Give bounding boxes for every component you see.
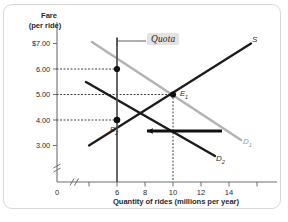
y-tick-label-6: 6.00 (12, 66, 50, 74)
point-label-e1: E1 (180, 90, 188, 100)
point-label-e2-sub: 2 (115, 130, 118, 136)
y-tick-label-3: 3.00 (12, 142, 50, 150)
curve-label-d2-sub: 2 (222, 159, 225, 165)
curve-d2 (86, 82, 215, 156)
quota-demand-point (114, 66, 120, 72)
axes (57, 22, 277, 182)
x-tick-label-14: 14 (219, 189, 239, 197)
y-axis-title-line2: (per ride) (15, 22, 75, 30)
curve-label-d1: D1 (243, 138, 252, 148)
chart-figure: Fare (per ride) $7.00 6.00 5.00 4.00 3.0… (0, 0, 288, 222)
x-tick-label-10: 10 (163, 189, 183, 197)
point-label-e2: E2 (110, 126, 118, 136)
curve-label-s-text: S (252, 35, 257, 44)
x-tick-marks (89, 182, 257, 187)
y-tick-label-7: $7.00 (12, 40, 50, 48)
y-tick-marks (53, 44, 57, 146)
point-e2 (114, 117, 121, 124)
point-e1 (170, 91, 176, 97)
x-tick-label-6: 6 (107, 189, 127, 197)
x-tick-label-0: 0 (47, 189, 67, 197)
curve-label-d2: D2 (216, 155, 225, 165)
x-tick-label-8: 8 (135, 189, 155, 197)
y-tick-label-5: 5.00 (12, 91, 50, 99)
curve-label-s: S (252, 36, 257, 44)
curve-label-d1-sub: 1 (249, 142, 252, 148)
y-axis-title-line1: Fare (23, 12, 75, 20)
quota-label: Quota (147, 33, 179, 45)
x-tick-label-12: 12 (191, 189, 211, 197)
point-label-e1-sub: 1 (185, 94, 188, 100)
x-axis-title: Quantity of rides (millions per year) (76, 198, 276, 206)
y-tick-label-4: 4.00 (12, 117, 50, 125)
